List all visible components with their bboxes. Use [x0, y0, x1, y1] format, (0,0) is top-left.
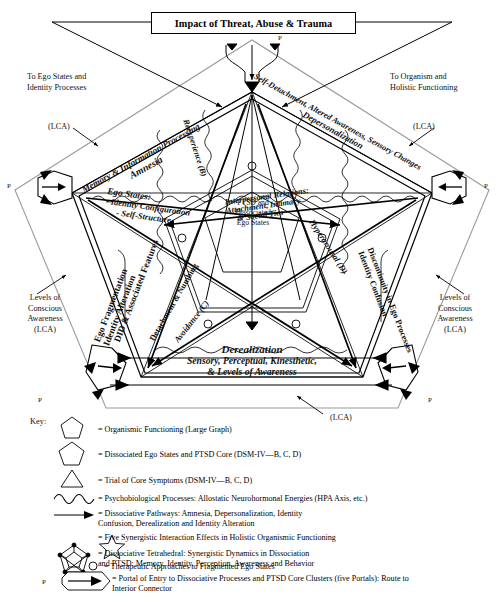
edge-bottom-line3: & Levels of Awareness — [150, 366, 354, 377]
portal-letter-bottom-right: P — [428, 396, 432, 404]
portal-letter-bottom-left: P — [38, 396, 42, 404]
key-item-organismic: = Organismic Functioning (Large Graph) — [98, 425, 232, 435]
key-label: Key: — [30, 417, 46, 428]
lca-label-upper-right: (LCA) — [413, 122, 435, 133]
page-title: Impact of Threat, Abuse & Trauma — [151, 12, 356, 34]
key-item-therapeutic: = Therapeutic Approaches to Fragmented E… — [104, 562, 275, 572]
edge-label-bottom: Derealization Sensory, Perceptual, Kines… — [150, 343, 354, 377]
diagram-canvas: Impact of Threat, Abuse & Trauma To Ego … — [0, 0, 500, 594]
key-item-psychobiological: = Psychobiological Processes: Allostatic… — [98, 494, 367, 504]
lca-label-upper-left: (LCA) — [48, 122, 70, 133]
annotation-to-organism: To Organism and Holistic Functioning — [390, 72, 500, 93]
triangle-icon — [61, 470, 83, 487]
annotation-to-ego-states: To Ego States and Identity Processes — [27, 72, 137, 93]
key-item-trial-core-symptoms: = Trial of Core Symptoms (DSM-IV—B, C, D… — [98, 476, 252, 486]
portal-letter-right: P — [484, 182, 488, 190]
key-portal-prefix: P — [42, 578, 46, 586]
key-item-synergistic: = Five Synergistic Interaction Effects i… — [98, 533, 336, 543]
portal-letter-top: P — [278, 34, 282, 42]
levels-conscious-awareness-right: Levels of Conscious Awareness (LCA) — [424, 293, 486, 335]
key-item-portal: = Portal of Entry to Dissociative Proces… — [112, 574, 409, 594]
levels-conscious-awareness-left: Levels of Conscious Awareness (LCA) — [14, 293, 76, 335]
edge-bottom-line2: Sensory, Perceptual, Kinesthetic, — [150, 355, 354, 366]
circle-icon — [89, 562, 97, 570]
pentagon-icon — [59, 442, 84, 465]
pentagon-small-icon — [61, 417, 83, 438]
lca-label-bottom: (LCA) — [330, 413, 352, 424]
edge-bottom-line1: Derealization — [150, 343, 354, 355]
arrow-icon — [54, 511, 94, 519]
wave-icon — [54, 495, 94, 504]
portal-letter-left: P — [7, 182, 11, 190]
key-item-dissociated-ego: = Dissociated Ego States and PTSD Core (… — [98, 450, 301, 460]
portal-icon — [62, 572, 110, 590]
key-item-dissociative-pathways: = Dissociative Pathways: Amnesia, Depers… — [98, 509, 302, 529]
